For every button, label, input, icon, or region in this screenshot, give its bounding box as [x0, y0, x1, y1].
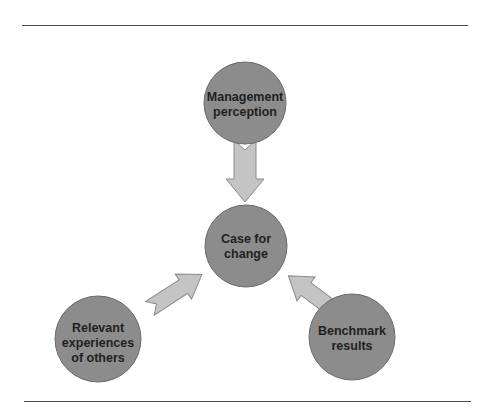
node-label-line: Benchmark [318, 324, 386, 338]
node-relevant-experiences: Relevant experiences of others [55, 296, 141, 382]
arrow-bottom-left-to-center [142, 262, 210, 321]
node-label-line: of others [71, 351, 125, 365]
node-label-line: results [332, 339, 373, 353]
node-label-line: experiences [62, 336, 134, 350]
arrow-top-to-center [226, 140, 264, 202]
node-label-line: Management [207, 90, 284, 104]
node-label-line: Case for [221, 232, 271, 246]
node-label-line: Relevant [72, 321, 125, 335]
node-benchmark-results: Benchmark results [309, 294, 395, 380]
node-label-line: perception [213, 105, 277, 119]
diagram-canvas: Management perception Case for change Re… [0, 0, 483, 418]
node-management-perception: Management perception [204, 62, 286, 144]
node-label-line: change [224, 247, 268, 261]
node-case-for-change: Case for change [205, 205, 287, 287]
